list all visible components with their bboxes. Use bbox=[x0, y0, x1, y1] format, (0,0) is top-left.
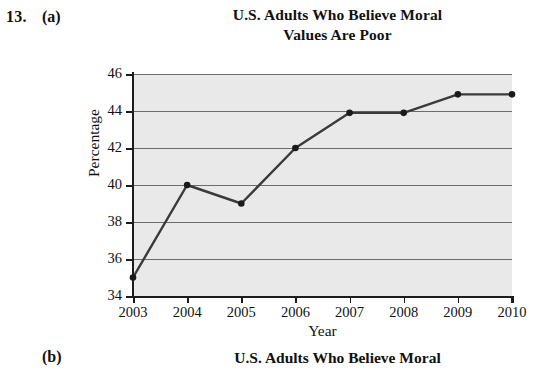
x-axis-label: Year bbox=[133, 322, 512, 340]
data-series-line bbox=[0, 46, 537, 336]
data-point-2003 bbox=[130, 274, 137, 281]
data-point-2008 bbox=[400, 110, 407, 117]
part-label-b: (b) bbox=[42, 348, 62, 366]
chart-title-a: U.S. Adults Who Believe Moral Values Are… bbox=[150, 5, 525, 45]
data-point-2005 bbox=[238, 200, 245, 207]
problem-number: 13. bbox=[6, 8, 27, 26]
line-chart: 34363840424446 2003200420052006200720082… bbox=[0, 46, 537, 336]
chart-title-a-line2: Values Are Poor bbox=[150, 25, 525, 45]
chart-title-b-line1: U.S. Adults Who Believe Moral bbox=[234, 349, 440, 366]
chart-title-a-line1: U.S. Adults Who Believe Moral bbox=[150, 5, 525, 25]
part-label-a: (a) bbox=[42, 8, 61, 26]
data-point-2009 bbox=[455, 91, 462, 98]
data-point-2004 bbox=[184, 182, 191, 189]
data-point-2010 bbox=[509, 91, 516, 98]
chart-title-b: U.S. Adults Who Believe Moral bbox=[150, 348, 525, 368]
data-point-2006 bbox=[292, 145, 299, 152]
data-point-2007 bbox=[346, 110, 353, 117]
y-axis-label: Percentage bbox=[85, 83, 103, 203]
